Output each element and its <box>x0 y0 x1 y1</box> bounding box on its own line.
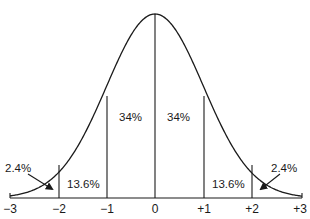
region-label-right-inner: 34% <box>167 111 190 123</box>
axis-tick-plus-3: +3 <box>293 202 307 216</box>
axis-tick-minus-3: −3 <box>3 202 17 216</box>
axis-tick-zero: 0 <box>152 202 159 216</box>
axis-tick-minus-2: −2 <box>52 202 66 216</box>
region-label-left-outer: 13.6% <box>67 178 100 190</box>
region-label-left-inner: 34% <box>119 111 142 123</box>
normal-distribution-diagram: 2.4% 13.6% 34% 34% 13.6% 2.4% −3 −2 −1 0… <box>0 0 310 219</box>
axis-tick-plus-2: +2 <box>245 202 259 216</box>
bell-curve <box>10 14 302 196</box>
region-label-right-outer: 13.6% <box>212 178 245 190</box>
axis-tick-plus-1: +1 <box>197 202 211 216</box>
region-label-right-tail: 2.4% <box>271 162 297 174</box>
diagram-canvas: 2.4% 13.6% 34% 34% 13.6% 2.4% −3 −2 −1 0… <box>0 0 310 219</box>
region-label-left-tail: 2.4% <box>5 162 31 174</box>
axis-tick-minus-1: −1 <box>100 202 114 216</box>
